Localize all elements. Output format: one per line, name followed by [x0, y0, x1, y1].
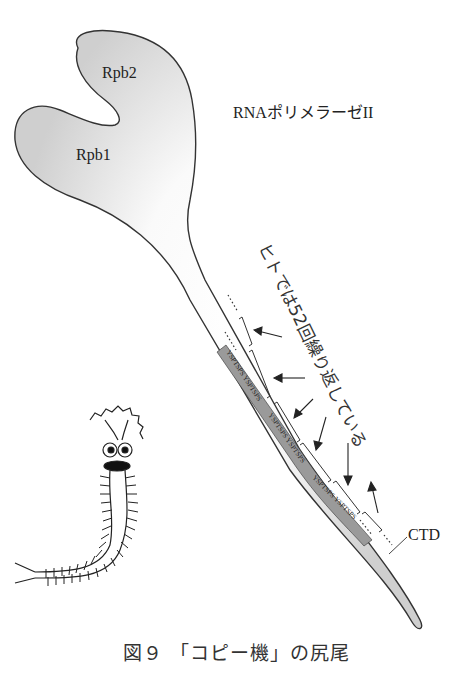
- rpb2-label: Rpb2: [102, 64, 137, 82]
- ctd-label: CTD: [408, 526, 440, 543]
- ctd-repeat-band: YSPTSPS YSPTSPS YSPTSPS YSPTSPS YSPTSPS …: [217, 345, 372, 546]
- ctd-leader-line: [389, 537, 407, 554]
- figure-canvas: YSPTSPS YSPTSPS YSPTSPS YSPTSPS YSPTSPS …: [0, 0, 473, 681]
- rna-polymerase-title: RNAポリメラーゼII: [233, 104, 373, 121]
- diagram-svg: YSPTSPS YSPTSPS YSPTSPS YSPTSPS YSPTSPS …: [0, 0, 473, 681]
- rpb1-label: Rpb1: [76, 146, 111, 164]
- centipede-mascot-icon: [15, 406, 143, 586]
- figure-caption: 図９ 「コピー機」の尻尾: [0, 638, 473, 665]
